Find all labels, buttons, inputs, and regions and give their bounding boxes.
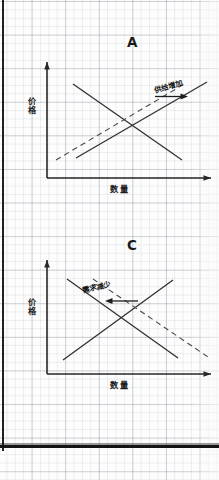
- chart-a-x-axis-label: 数量: [110, 182, 130, 194]
- chart-a-supply-curve: [76, 82, 207, 158]
- chart-a-shift-arrow: [155, 94, 188, 100]
- chart-c-x-axis-label: 数量: [110, 378, 130, 390]
- chart-a-y-axis-label: 价格: [25, 97, 37, 115]
- chart-panel-c: C 需求减少 价格 数量: [0, 218, 219, 440]
- chart-panel-a: A 供给增加 价格 数量: [0, 0, 219, 215]
- chart-c-supply-curve: [63, 280, 173, 360]
- chart-c-axes: [44, 260, 211, 377]
- chart-c-y-axis-label: 价格: [25, 298, 37, 316]
- chart-c-shift-arrow: [105, 298, 138, 304]
- chart-c-canvas: [0, 218, 219, 440]
- chart-c-demand-curve-shifted: [93, 279, 211, 359]
- bottom-divider-line: [0, 445, 219, 448]
